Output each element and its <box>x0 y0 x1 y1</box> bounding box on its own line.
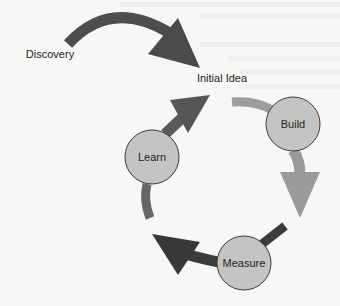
diagram-canvas: Build Learn Measure Discovery Initial Id… <box>0 0 340 306</box>
discovery-label: Discovery <box>26 48 75 60</box>
build-to-measure-arrow <box>280 150 320 218</box>
cycle-diagram: Build Learn Measure Discovery Initial Id… <box>0 0 340 306</box>
idea-to-build-arrow <box>232 102 272 110</box>
learn-lower-arc <box>146 184 150 218</box>
node-measure-label: Measure <box>223 257 266 269</box>
node-build-label: Build <box>281 118 305 130</box>
node-learn-label: Learn <box>138 151 166 163</box>
initial-idea-label: Initial Idea <box>197 72 248 84</box>
node-measure: Measure <box>217 236 271 290</box>
node-learn: Learn <box>125 130 179 184</box>
discovery-arrow <box>68 18 200 68</box>
learn-to-idea-arrow <box>165 95 210 134</box>
node-build: Build <box>266 97 320 151</box>
